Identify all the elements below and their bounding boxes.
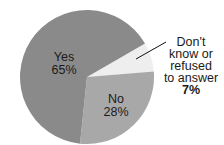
label-no-name: No (96, 93, 136, 106)
label-dont-know: Don't know or refused to answer 7% (158, 36, 224, 96)
label-no-pct: 28% (96, 106, 136, 119)
pie-slices (20, 10, 154, 144)
label-yes-name: Yes (44, 51, 84, 64)
label-dk-pct: 7% (158, 84, 224, 96)
label-no: No 28% (96, 93, 136, 118)
label-yes: Yes 65% (44, 51, 84, 76)
label-yes-pct: 65% (44, 64, 84, 77)
